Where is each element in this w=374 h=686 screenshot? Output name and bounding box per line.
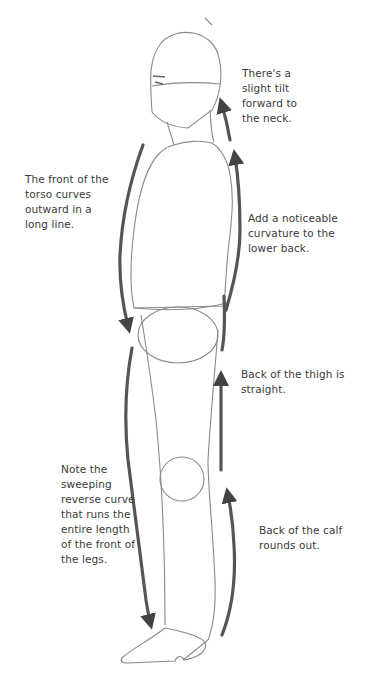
arrow-calf: [222, 495, 235, 635]
foot: [121, 628, 205, 663]
figure-drawing: [0, 0, 374, 686]
leg-back: [208, 330, 218, 640]
sketch-mark: [205, 18, 212, 25]
arrow-torso: [120, 145, 143, 326]
annotation-leg-reverse-curve: Note the sweeping reverse curve that run…: [61, 462, 135, 567]
torso: [131, 141, 232, 308]
annotation-neck-tilt: There's a slight tilt forward to the nec…: [242, 66, 297, 126]
knee-circle: [160, 457, 204, 501]
figure-outline: [121, 18, 232, 663]
neck-back: [210, 110, 214, 142]
annotation-torso-curve: The front of the torso curves outward in…: [25, 172, 108, 232]
hip-circle: [138, 307, 218, 363]
eye: [153, 76, 165, 77]
annotation-lower-back: Add a noticeable curvature to the lower …: [248, 211, 338, 256]
annotation-thigh: Back of the thigh is straight.: [241, 367, 345, 397]
arrows: [120, 105, 240, 635]
hip-line: [134, 303, 227, 310]
annotation-calf: Back of the calf rounds out.: [259, 523, 342, 553]
arrow-lower-back: [226, 157, 240, 310]
arrow-neck: [222, 105, 230, 140]
eye-lower: [155, 82, 163, 84]
